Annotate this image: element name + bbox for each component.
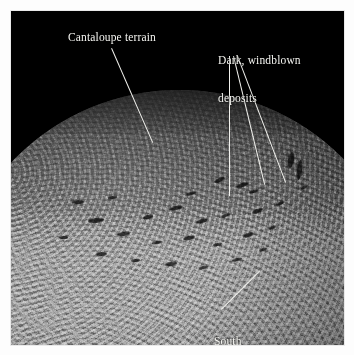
annotation-label-dark-windblown-deposits: Dark, windblown deposits: [218, 29, 301, 129]
annotation-label-cantaloupe-terrain: Cantaloupe terrain: [68, 31, 156, 44]
dark-streak-deposit: [59, 236, 68, 239]
annotation-label-south-line1: South: [214, 335, 272, 345]
photograph-plate: Cantaloupe terrain Dark, windblown depos…: [11, 11, 344, 345]
annotation-label-south-polar-region: South polar region: [214, 310, 272, 345]
annotation-label-deposits-line1: Dark, windblown: [218, 54, 301, 67]
annotation-label-deposits-line2: deposits: [218, 92, 301, 105]
figure-container: Cantaloupe terrain Dark, windblown depos…: [0, 0, 354, 355]
